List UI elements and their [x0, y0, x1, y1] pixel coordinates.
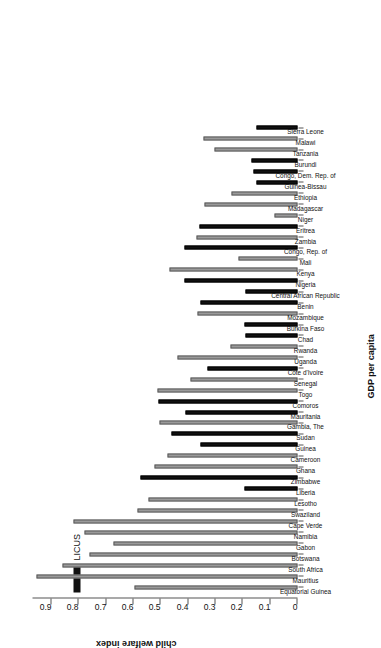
bar-slot — [32, 494, 297, 505]
value-axis-tick — [159, 598, 160, 604]
category-label-slot: Nigeria — [303, 275, 381, 286]
bar-slot — [32, 450, 297, 461]
category-label: Central African Republic — [271, 291, 340, 298]
category-label: Burundi — [294, 160, 316, 167]
category-label: Tanzania — [292, 149, 318, 156]
bar-slot — [32, 155, 297, 166]
bar — [157, 388, 297, 392]
bar-slot — [32, 384, 297, 395]
bar-slot — [32, 395, 297, 406]
bar-slot — [32, 483, 297, 494]
bar-slot — [32, 253, 297, 264]
category-label: Zambia — [294, 237, 315, 244]
bar-slot — [32, 176, 297, 187]
category-label: Zimbabwe — [290, 477, 319, 484]
category-label: Mauritania — [290, 412, 320, 419]
category-label: Nigeria — [295, 280, 315, 287]
bar-slot — [32, 242, 297, 253]
bar — [214, 147, 297, 151]
category-label: Cote d'Ivoire — [287, 368, 323, 375]
bar — [244, 486, 297, 490]
value-axis-tick-label: 0.4 — [166, 601, 188, 611]
bar — [184, 245, 297, 249]
bar — [200, 442, 297, 446]
category-label: Rwanda — [293, 346, 316, 353]
category-label-slot: Guinea — [303, 439, 381, 450]
value-axis-title: child welfare index — [95, 638, 176, 648]
bar-slot — [32, 275, 297, 286]
bar-slot — [32, 308, 297, 319]
bar-slot — [32, 231, 297, 242]
category-label: Guinea-Bissau — [284, 182, 326, 189]
value-axis-tick-label: 0 — [275, 601, 297, 611]
bar-slot — [32, 581, 297, 592]
bar-slot — [32, 373, 297, 384]
category-label: Kenya — [296, 269, 314, 276]
bar — [169, 267, 297, 271]
bar — [84, 530, 297, 534]
category-label: Equatorial Guinea — [279, 587, 330, 594]
bar — [184, 278, 297, 282]
bar-slot — [32, 417, 297, 428]
bar — [274, 213, 297, 217]
category-label: Liberia — [295, 488, 314, 495]
category-label: Cameroon — [290, 455, 320, 462]
bar — [140, 475, 297, 479]
bar-slot — [32, 570, 297, 581]
bar-slot — [32, 330, 297, 341]
value-axis-tick — [132, 598, 133, 604]
category-label: Namibia — [293, 532, 316, 539]
value-axis-tick — [50, 598, 51, 604]
bar — [62, 563, 297, 567]
bar — [177, 355, 297, 359]
category-label: Uganda — [294, 357, 316, 364]
value-axis-tick — [241, 598, 242, 604]
value-axis-tick-label: 0.2 — [220, 601, 242, 611]
category-label: Mauritius — [292, 576, 318, 583]
bar — [171, 431, 297, 435]
bar — [137, 508, 297, 512]
bar-slot — [32, 209, 297, 220]
bar — [113, 541, 297, 545]
category-label: Guinea — [295, 444, 316, 451]
category-label-slot: Sierra Leone — [303, 122, 381, 133]
category-label: Cape Verde — [288, 521, 322, 528]
category-label: Senegal — [293, 379, 316, 386]
value-axis-tick-label: 0.8 — [56, 601, 78, 611]
category-label: Gambia, The — [287, 422, 324, 429]
category-label: Swaziland — [290, 510, 319, 517]
value-axis-tick — [296, 598, 297, 604]
category-label: Chad — [297, 335, 312, 342]
value-axis-tick-label: 0.3 — [193, 601, 215, 611]
category-label-slot: Mozambique — [303, 308, 381, 319]
category-label-slot: Eritrea — [303, 220, 381, 231]
bar — [199, 224, 297, 228]
category-label: Malawi — [295, 138, 315, 145]
bar — [207, 366, 297, 370]
bar-slot — [32, 526, 297, 537]
bar-slot — [32, 548, 297, 559]
bar — [200, 300, 297, 304]
category-label: Sierra Leone — [287, 127, 324, 134]
bar — [134, 585, 297, 589]
category-label: Mali — [299, 258, 311, 265]
bar — [148, 497, 297, 501]
bar — [238, 256, 297, 260]
value-axis-tick-label: 0.1 — [248, 601, 270, 611]
bar-slot — [32, 406, 297, 417]
bar-slot — [32, 286, 297, 297]
category-label: Togo — [298, 390, 312, 397]
value-axis-tick-label: 0.7 — [84, 601, 106, 611]
category-label: Madagascar — [287, 204, 322, 211]
category-label: Ghana — [295, 466, 314, 473]
bar-slot — [32, 319, 297, 330]
value-axis-tick-label: 0.6 — [111, 601, 133, 611]
value-axis-tick-label: 0.5 — [138, 601, 160, 611]
category-label-slot: Mali — [303, 253, 381, 264]
value-axis-tick — [187, 598, 188, 604]
bar — [154, 464, 297, 468]
category-label: Sudan — [296, 433, 314, 440]
